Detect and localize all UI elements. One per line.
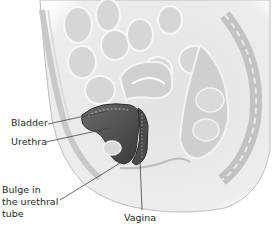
label-bulge-line1: Bulge in [2,184,41,196]
label-vagina: Vagina [124,212,156,224]
label-bladder: Bladder [11,117,48,129]
anatomy-figure: Bladder Urethra Bulge in the urethral tu… [0,0,273,230]
label-bulge-line3: tube [2,208,24,220]
label-bulge-line2: the urethral [2,196,58,208]
pubic-bone [103,141,121,155]
label-urethra: Urethra [11,136,47,148]
